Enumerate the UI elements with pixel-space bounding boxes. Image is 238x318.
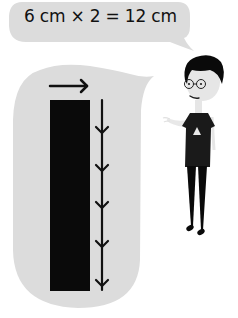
eye-left — [188, 83, 190, 85]
equation-text: 6 cm × 2 = 12 cm — [24, 6, 177, 26]
black-bar — [50, 100, 90, 291]
shoe-left — [185, 224, 194, 232]
leg-left — [187, 166, 196, 226]
leg-right — [198, 166, 207, 230]
character — [163, 55, 224, 236]
eye-right — [200, 83, 202, 85]
illustration-scene: 6 cm × 2 = 12 cm — [0, 0, 238, 318]
illustration-canvas — [0, 0, 238, 318]
shirt — [182, 113, 215, 167]
neck — [195, 100, 202, 114]
